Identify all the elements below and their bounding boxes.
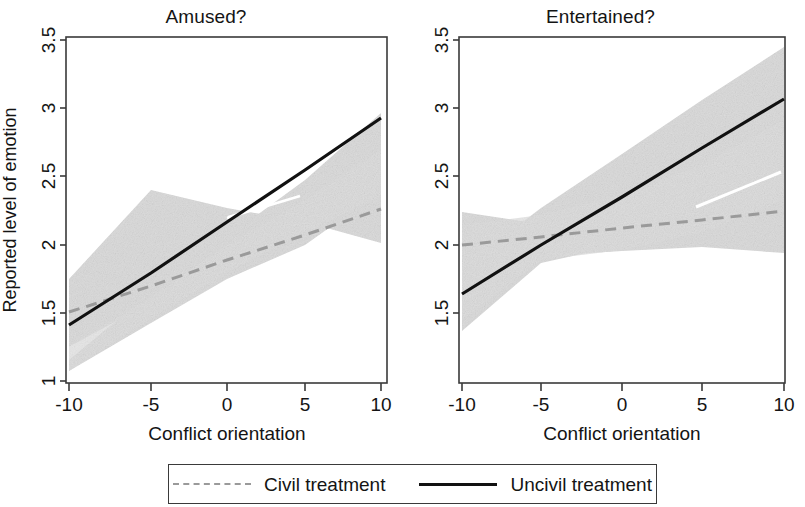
solid-line-swatch-icon: [419, 483, 497, 486]
x-axis-title: Conflict orientation: [148, 423, 305, 440]
dashed-line-swatch-icon: [173, 483, 251, 485]
x-tick-label: -5: [143, 394, 160, 415]
x-tick-label: 5: [300, 394, 311, 415]
legend-label-uncivil: Uncivil treatment: [510, 475, 652, 494]
y-axis-ticks: [453, 40, 459, 313]
x-tick-label: -10: [55, 394, 82, 415]
x-tick-label: -10: [448, 394, 475, 415]
panel-entertained: Entertained?: [400, 0, 805, 440]
y-tick-label: 3.5: [38, 27, 59, 53]
figure-panel-plot: Amused? Reported level of emotion: [0, 0, 805, 507]
plot-area-entertained: 3.5 3 2.5 2 1.5 -10 -5 0 5 10 Conflict o…: [400, 0, 805, 440]
y-tick-label: 1.5: [38, 300, 59, 326]
x-axis-ticks: [69, 383, 381, 391]
y-tick-label: 3: [431, 103, 452, 114]
panel-amused: Amused? Reported level of emotion: [0, 0, 400, 440]
y-tick-label: 1: [38, 376, 59, 387]
legend-box: Civil treatment Uncivil treatment: [168, 464, 657, 504]
y-axis-ticks: [60, 40, 66, 381]
y-tick-label: 2: [431, 240, 452, 251]
y-tick-label: 2.5: [431, 163, 452, 189]
legend-entry-uncivil: Uncivil treatment: [419, 475, 652, 494]
x-axis-title: Conflict orientation: [543, 423, 700, 440]
x-tick-label: 10: [773, 394, 794, 415]
y-axis-title: Reported level of emotion: [0, 107, 20, 312]
y-tick-label: 1.5: [431, 300, 452, 326]
confidence-bands: [462, 12, 784, 331]
x-tick-label: 0: [617, 394, 628, 415]
y-tick-label: 2: [38, 240, 59, 251]
legend-entry-civil: Civil treatment: [173, 475, 385, 494]
x-tick-label: 5: [697, 394, 708, 415]
scan-artifact-streak: [630, 12, 668, 20]
y-tick-label: 2.5: [38, 163, 59, 189]
x-tick-label: -5: [533, 394, 550, 415]
legend-label-civil: Civil treatment: [264, 475, 385, 494]
x-tick-label: 10: [370, 394, 391, 415]
x-tick-label: 0: [222, 394, 233, 415]
y-tick-label: 3: [38, 103, 59, 114]
plot-area-amused: Reported level of emotion: [0, 0, 400, 440]
y-tick-label: 3.5: [431, 27, 452, 53]
x-axis-ticks: [462, 383, 784, 391]
